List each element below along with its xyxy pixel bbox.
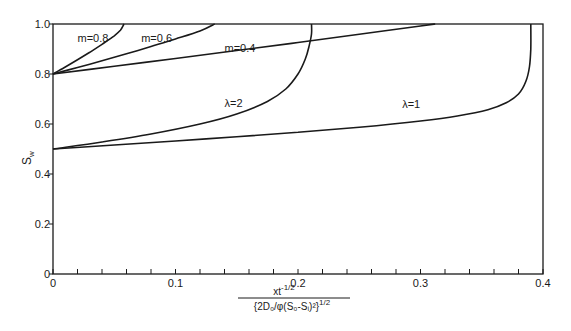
y-tick-label: 0 <box>44 268 50 280</box>
x-tick-label: 0.1 <box>168 277 183 289</box>
curve-label: λ=2 <box>225 97 243 109</box>
chart-canvas: 00.10.20.30.4 00.20.40.60.81.0 m=0.8m=0.… <box>0 0 571 331</box>
plot-curves <box>53 24 531 149</box>
x-axis-ticks: 00.10.20.30.4 <box>50 269 551 289</box>
x-axis-label-numerator-exp: -1/2 <box>281 283 295 292</box>
svg-text:{2D₀/φ(S₀-Sᵢ)²}1/2: {2D₀/φ(S₀-Sᵢ)²}1/2 <box>254 298 331 312</box>
plot-frame <box>53 24 543 274</box>
y-tick-label: 0.8 <box>35 68 50 80</box>
y-tick-label: 0.6 <box>35 118 50 130</box>
x-axis-label-denominator-exp: 1/2 <box>319 298 331 307</box>
y-tick-label: 0.2 <box>35 218 50 230</box>
svg-text:Sw: Sw <box>20 151 36 165</box>
x-tick-label: 0.4 <box>535 277 550 289</box>
x-axis-label-denominator: {2D₀/φ(S₀-Sᵢ)²} <box>254 301 320 312</box>
x-tick-label: 0 <box>50 277 56 289</box>
y-tick-label: 0.4 <box>35 168 50 180</box>
curve-label: m=0.4 <box>225 42 256 54</box>
x-tick-label: 0.3 <box>413 277 428 289</box>
curve-label: m=0.6 <box>141 32 172 44</box>
y-axis-label-sub: w <box>27 151 36 158</box>
svg-text:xt-1/2: xt-1/2 <box>273 283 295 297</box>
y-tick-label: 1.0 <box>35 18 50 30</box>
y-axis-label-main: S <box>20 157 34 165</box>
curve-label: m=0.8 <box>78 32 109 44</box>
plot-border <box>53 24 543 274</box>
y-axis-ticks: 00.20.40.60.81.0 <box>35 18 53 280</box>
x-axis-label: xt-1/2 {2D₀/φ(S₀-Sᵢ)²}1/2 <box>238 283 350 312</box>
curve-labels: m=0.8m=0.6m=0.4λ=2λ=1 <box>78 32 421 110</box>
y-axis-label: Sw <box>20 151 36 165</box>
curve-label: λ=1 <box>402 98 420 110</box>
